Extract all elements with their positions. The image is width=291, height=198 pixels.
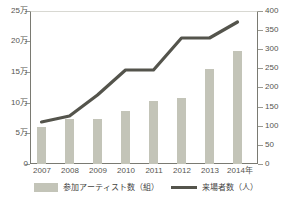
right-axis-label-300: 300	[265, 45, 278, 53]
right-axis-tick-0	[258, 164, 263, 165]
bar-2009	[93, 119, 102, 164]
bar-2014	[233, 51, 242, 164]
bar-2011	[149, 101, 158, 164]
right-axis-label-50: 50	[265, 141, 274, 149]
right-axis-label-250: 250	[265, 64, 278, 72]
right-axis-label-350: 350	[265, 26, 278, 34]
x-axis-label-2014: 2014年	[218, 166, 262, 175]
right-axis-tick-400	[258, 11, 263, 12]
left-axis-label-100000: 10万	[11, 99, 28, 107]
right-axis-label-100: 100	[265, 122, 278, 130]
legend-bar-swatch-icon	[34, 183, 58, 192]
left-axis-label-200000: 20万	[11, 37, 28, 45]
bar-2013	[205, 69, 214, 164]
bar-2010	[121, 111, 130, 164]
right-axis-tick-50	[258, 145, 263, 146]
legend-label-visitors: 来場者数（人）	[202, 183, 258, 192]
right-axis-tick-300	[258, 49, 263, 50]
right-axis-label-150: 150	[265, 103, 278, 111]
right-axis-label-200: 200	[265, 83, 278, 91]
right-axis-tick-200	[258, 87, 263, 88]
left-axis-label-150000: 15万	[11, 68, 28, 76]
right-axis-label-400: 400	[265, 7, 278, 15]
legend-line-swatch-icon	[171, 186, 197, 189]
bar-2007	[37, 127, 46, 164]
right-axis-tick-150	[258, 107, 263, 108]
legend-item-artists: 参加アーティスト数（組）	[34, 183, 159, 192]
chart-legend: 参加アーティスト数（組） 来場者数（人）	[0, 180, 291, 194]
right-axis-tick-350	[258, 30, 263, 31]
legend-label-artists: 参加アーティスト数（組）	[63, 183, 159, 192]
left-axis-label-50000: 5万	[16, 129, 28, 137]
right-axis-label-0: 0	[265, 160, 269, 168]
legend-item-visitors: 来場者数（人）	[171, 183, 258, 192]
right-axis-tick-250	[258, 68, 263, 69]
right-axis-tick-100	[258, 126, 263, 127]
bar-2012	[177, 98, 186, 164]
bar-2008	[65, 119, 74, 164]
left-axis-label-250000: 25万	[11, 7, 28, 15]
chart-container: 25万 20万 15万 10万 5万 0 400 350 300 250 200…	[0, 0, 291, 198]
